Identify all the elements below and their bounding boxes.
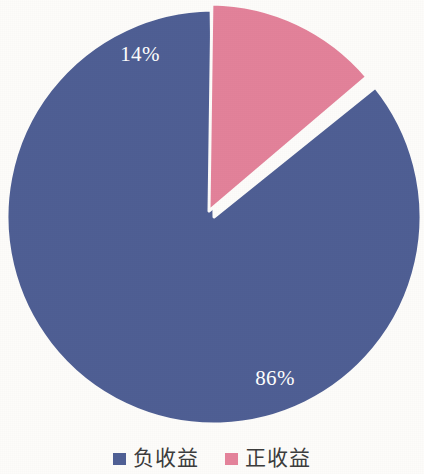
pie-chart-figure: 86% 14% 负收益 正收益: [0, 0, 424, 474]
legend-item-positive-return[interactable]: 正收益: [225, 448, 311, 469]
legend-label-positive-return: 正收益: [245, 448, 311, 469]
legend-item-negative-return[interactable]: 负收益: [113, 448, 199, 469]
pie-slice-label-positive-return: 14%: [120, 42, 159, 66]
pie-chart-canvas: 86% 14%: [0, 0, 424, 440]
legend-swatch-positive-return: [225, 453, 238, 465]
pie-slices-group: [7, 4, 421, 424]
legend-swatch-negative-return: [113, 453, 126, 465]
chart-legend: 负收益 正收益: [0, 443, 424, 474]
pie-slice-label-negative-return: 86%: [255, 366, 294, 390]
legend-label-negative-return: 负收益: [133, 448, 199, 469]
